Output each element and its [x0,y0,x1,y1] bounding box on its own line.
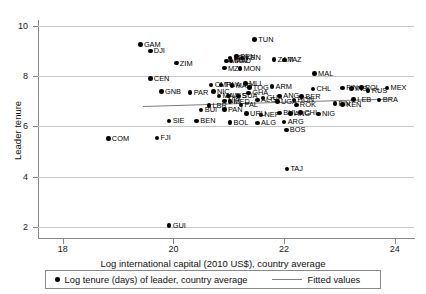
data-point [174,61,179,66]
y-axis-tick [33,177,38,178]
data-point [275,99,280,104]
data-point-label: ARM [275,83,291,90]
data-point [148,76,153,81]
data-point [238,66,243,71]
gridline-y [38,126,414,127]
data-point-label: CHI [304,109,317,116]
legend-marker-points-icon [55,277,60,282]
data-point-label: BEN [200,117,215,124]
data-point-label: TUN [258,36,273,43]
data-point-label: DJI [154,47,165,54]
x-axis-tick-label: 18 [48,245,78,254]
y-axis-tick-label: 6 [6,122,28,131]
data-point [349,86,354,91]
data-point [311,87,316,92]
data-point [167,119,172,124]
y-axis-tick [33,126,38,127]
data-point [228,99,233,104]
data-point [217,94,222,99]
data-point-label: MAL [318,70,333,77]
y-axis-tick [33,76,38,77]
data-point [138,42,143,47]
data-point [188,90,193,95]
data-point-label: PAR [194,89,209,96]
legend-label-fitted: Fitted values [308,275,361,285]
data-point-label: COM [112,135,129,142]
data-point [255,121,260,126]
data-point [222,107,227,112]
data-point-label: PAL [245,101,258,108]
data-point-label: PAN [228,106,243,113]
legend-marker-fitted-icon [272,279,302,280]
data-point-label: BRA [383,96,398,103]
data-point [284,128,289,133]
gridline-y [38,76,414,77]
data-point [298,110,303,115]
data-point-label: SIE [173,117,185,124]
data-point [228,120,233,125]
data-point [359,85,364,90]
data-point [148,49,153,54]
data-point-label: BOL [233,119,248,126]
data-point [270,84,275,89]
data-point [247,85,252,90]
data-point [211,89,216,94]
data-point-label: FJI [160,134,170,141]
data-point-label: ALG [261,119,276,126]
data-point-label: MZ [228,65,239,72]
data-point-label: ZIM [180,60,193,67]
data-point-label: NIG [322,110,335,117]
data-point [366,88,371,93]
data-point [312,71,317,76]
data-point [244,111,249,116]
data-point-label: MON [243,65,260,72]
chart-legend: Log tenure (days) of leader, country ave… [45,270,381,289]
y-axis-tick-label: 2 [6,223,28,232]
data-point-label: TAJ [290,165,303,172]
y-axis-tick-label: 10 [6,22,28,31]
data-point-label: GUI [173,222,186,229]
scatter-plot-figure: Leader tenure GAMDJITUNZIMSENBENKENMAWMA… [0,0,426,294]
x-axis-line [38,238,415,239]
data-point-label: GNB [165,88,181,95]
gridline-y [38,26,414,27]
y-axis-tick-label: 8 [6,72,28,81]
y-axis-tick [33,26,38,27]
data-point [209,83,214,88]
data-point-label: CEN [154,75,170,82]
data-point [252,37,257,42]
data-point [282,58,287,63]
legend-label-points: Log tenure (days) of leader, country ave… [65,275,248,285]
data-point [222,66,227,71]
gridline-y [38,177,414,178]
data-point [194,119,199,124]
data-point-label: BUI [205,106,217,113]
data-point [199,108,204,113]
x-axis-title: Log international capital (2010 US$), co… [0,258,426,269]
data-point [340,102,345,107]
data-point-label: TAZ [288,56,301,63]
data-point [155,136,160,141]
data-point [385,86,390,91]
data-point [106,136,111,141]
data-point-label: MEX [390,84,406,91]
x-axis-tick-label: 22 [269,245,299,254]
data-point [288,111,293,116]
data-point [333,101,338,106]
data-point [316,112,321,117]
data-point [159,89,164,94]
data-point [294,103,299,108]
data-point-label: BOS [290,126,306,133]
gridline-y [38,227,414,228]
data-point [285,167,290,172]
x-axis-tick-label: 24 [380,245,410,254]
y-axis-tick [33,227,38,228]
data-point-label: KEN [346,101,361,108]
y-axis-tick-label: 4 [6,173,28,182]
data-point [230,83,235,88]
plot-area: GAMDJITUNZIMSENBENKENMAWMAUZAMTAZMZMONCE… [38,20,414,238]
data-point [340,86,345,91]
data-point [282,120,287,125]
x-axis-tick-label: 20 [158,245,188,254]
data-point [377,98,382,103]
